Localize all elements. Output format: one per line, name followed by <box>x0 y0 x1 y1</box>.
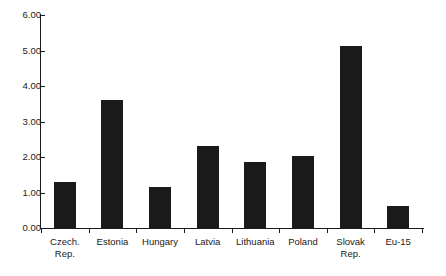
x-axis-label: Czech. Rep. <box>41 236 89 259</box>
bar[interactable] <box>340 46 362 228</box>
y-tick-label: 0.00 <box>7 223 41 233</box>
x-axis-tick <box>41 229 42 233</box>
y-tick-mark <box>41 15 45 16</box>
y-tick-label: 4.00 <box>7 81 41 91</box>
bar-slot <box>184 15 232 228</box>
bar-slot <box>374 15 422 228</box>
x-axis-tick <box>327 229 328 233</box>
y-tick-mark <box>41 157 45 158</box>
x-axis-label: Eu-15 <box>374 236 422 248</box>
bar-slot <box>89 15 137 228</box>
x-axis-tick <box>89 229 90 233</box>
x-axis-tick <box>232 229 233 233</box>
bar[interactable] <box>149 187 171 228</box>
y-tick-label: 1.00 <box>7 188 41 198</box>
y-axis-ticks: 6.005.004.003.002.001.000.00 <box>0 0 41 276</box>
x-axis-label: Estonia <box>89 236 137 248</box>
plot-area <box>41 15 422 228</box>
y-tick-mark <box>41 228 45 229</box>
bar[interactable] <box>101 100 123 228</box>
bar-slot <box>136 15 184 228</box>
x-axis-tick <box>422 229 423 233</box>
x-axis-label: Hungary <box>136 236 184 248</box>
bar-slot <box>279 15 327 228</box>
bar[interactable] <box>54 182 76 228</box>
y-tick-mark <box>41 193 45 194</box>
x-axis-label: Latvia <box>184 236 232 248</box>
chart-page: 6.005.004.003.002.001.000.00 Czech. Rep.… <box>0 0 446 276</box>
bar-slot <box>41 15 89 228</box>
bar[interactable] <box>197 146 219 228</box>
x-axis-tick <box>136 229 137 233</box>
y-tick-label: 6.00 <box>7 10 41 20</box>
bar-slot <box>232 15 280 228</box>
x-axis-label: Poland <box>279 236 327 248</box>
bar[interactable] <box>387 206 409 228</box>
y-tick-label: 5.00 <box>7 46 41 56</box>
bar-slot <box>327 15 375 228</box>
y-tick-mark <box>41 122 45 123</box>
x-axis-tick <box>374 229 375 233</box>
y-tick-mark <box>41 51 45 52</box>
y-tick-label: 2.00 <box>7 152 41 162</box>
x-axis-tick <box>279 229 280 233</box>
x-axis-label: Lithuania <box>232 236 280 248</box>
x-axis-label: Slovak Rep. <box>327 236 375 259</box>
y-tick-label: 3.00 <box>7 117 41 127</box>
bar[interactable] <box>292 156 314 228</box>
y-tick-mark <box>41 86 45 87</box>
x-axis-tick <box>184 229 185 233</box>
bar[interactable] <box>244 162 266 228</box>
